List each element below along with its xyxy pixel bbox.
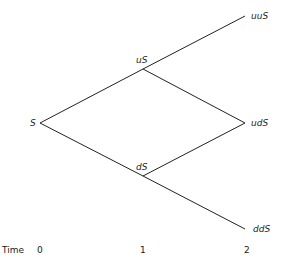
edge-s-ds	[40, 123, 143, 176]
node-label-s: S	[30, 119, 36, 128]
node-label-dds: ddS	[253, 225, 270, 234]
time-tick-2: 2	[244, 246, 250, 255]
edge-s-us	[40, 69, 143, 123]
node-label-ds: dS	[136, 163, 147, 172]
time-tick-0: 0	[37, 246, 43, 255]
node-label-uus: uuS	[251, 12, 268, 21]
binomial-tree-diagram	[0, 0, 285, 264]
edge-ds-uds	[143, 123, 245, 176]
edge-ds-dds	[143, 176, 245, 229]
node-label-uds: udS	[251, 119, 268, 128]
edge-us-uds	[143, 69, 245, 123]
time-axis-label: Time	[2, 246, 24, 255]
time-tick-1: 1	[140, 246, 146, 255]
node-label-us: uS	[136, 56, 147, 65]
edge-us-uus	[143, 16, 245, 69]
